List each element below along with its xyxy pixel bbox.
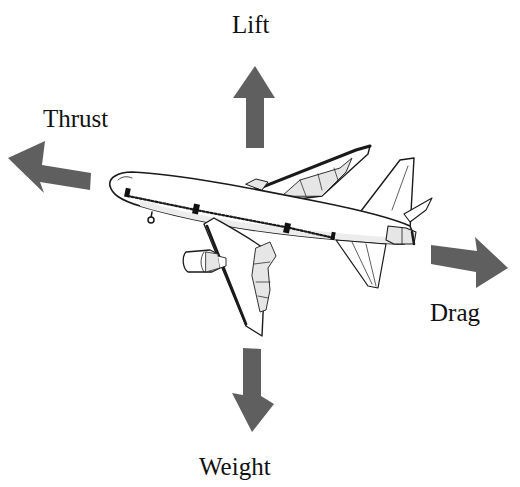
arrow-left-icon <box>8 141 91 193</box>
arrow-right-icon <box>431 237 508 288</box>
drag-label: Drag <box>430 300 480 325</box>
airplane-icon <box>110 146 432 336</box>
lift-label: Lift <box>232 12 270 37</box>
arrow-up-icon <box>233 66 275 148</box>
arrow-down-icon <box>232 348 274 432</box>
four-forces-diagram: Lift Thrust Drag Weight <box>0 0 520 487</box>
thrust-label: Thrust <box>43 106 108 131</box>
diagram-artwork <box>0 0 520 487</box>
weight-label: Weight <box>199 454 271 479</box>
